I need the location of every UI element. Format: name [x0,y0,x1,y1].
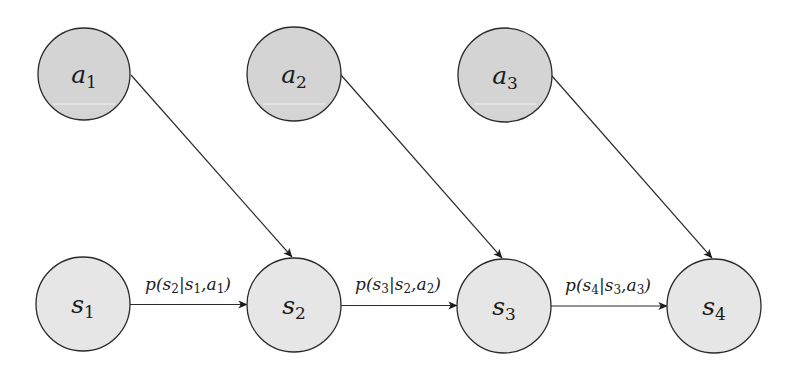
node-a3: a3 [458,28,552,122]
mdp-diagram: a1 a2 a3 s1 s2 s3 s4 p(s2|s1,a1) p(s3|s2… [0,0,797,369]
transition-label-2: p(s3|s2,a2) [355,274,441,296]
transition-label-1: p(s2|s1,a1) [145,274,231,296]
node-a2: a2 [247,27,341,121]
edge-a3-to-s4 [552,76,712,258]
node-s1: s1 [36,257,130,351]
node-s4: s4 [667,259,761,353]
node-s3: s3 [457,259,551,353]
node-s2: s2 [247,258,341,352]
node-a1: a1 [38,28,130,120]
transition-label-3: p(s4|s3,a3) [565,275,651,297]
